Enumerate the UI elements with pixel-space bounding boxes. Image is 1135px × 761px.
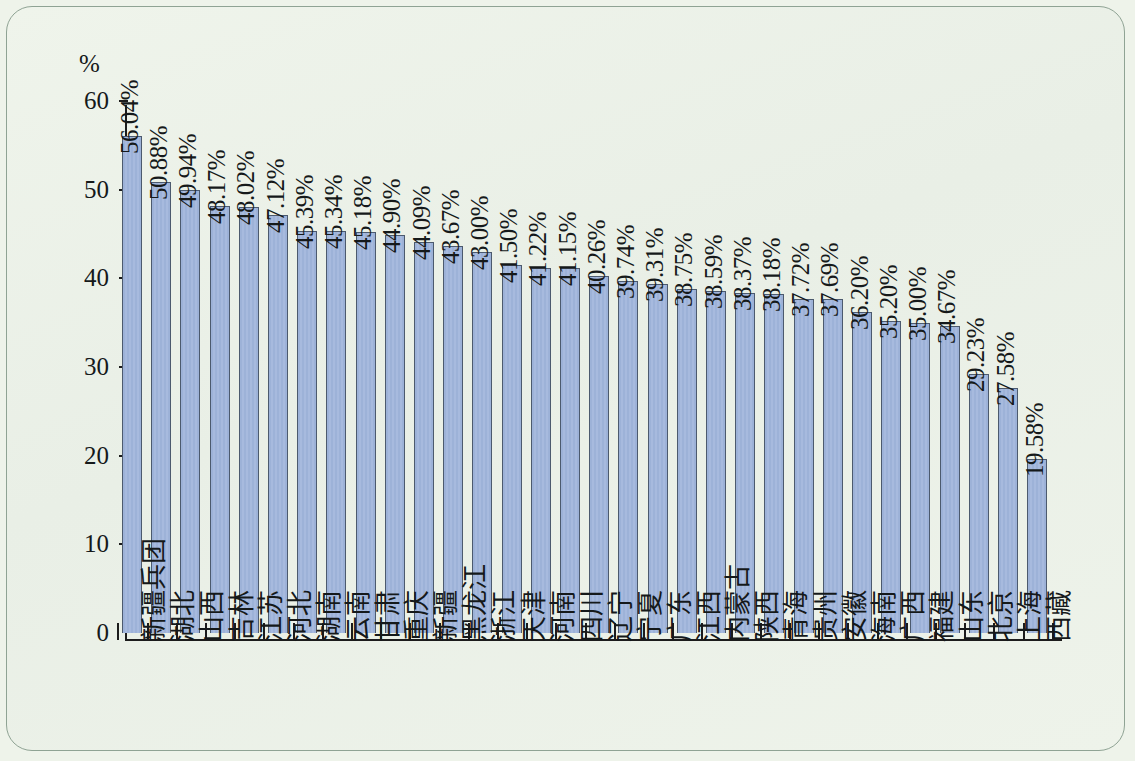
bar [531,268,551,633]
x-category-label: 黑龙江 [462,564,488,642]
bar [677,289,697,633]
x-category-label: 广西 [900,590,926,642]
x-category-label: 湖北 [170,590,196,642]
bar [385,235,405,633]
bar-value-label: 43.67% [438,190,463,264]
x-category-label: 江西 [696,590,722,642]
bar-value-label: 48.02% [233,151,258,225]
x-category-label: 贵州 [813,590,839,642]
x-category-label: 安徽 [842,590,868,642]
x-category-label: 广东 [667,590,693,642]
bar [940,326,960,633]
bar [852,312,872,633]
bar [648,284,668,633]
x-category-label: 陕西 [754,590,780,642]
bar [794,299,814,633]
bar-value-label: 41.15% [555,212,580,286]
bar [910,323,930,633]
y-tick-label: 20 [57,443,109,468]
x-category-label: 浙江 [491,590,517,642]
bar-value-label: 45.39% [292,174,317,248]
x-category-label: 云南 [345,590,371,642]
bar [297,231,317,633]
bar-value-label: 41.22% [525,211,550,285]
x-category-label: 海南 [871,590,897,642]
bar-value-label: 27.58% [993,332,1018,406]
x-category-label: 上海 [1017,590,1043,642]
bar-value-label: 29.23% [963,318,988,392]
bar-value-label: 41.50% [496,209,521,283]
bar-value-label: 48.17% [204,150,229,224]
bar-value-label: 43.00% [467,196,492,270]
x-category-label: 山西 [199,590,225,642]
bar-value-label: 38.75% [671,233,696,307]
bar-value-label: 50.88% [146,126,171,200]
bar [881,321,901,633]
x-category-label: 重庆 [404,590,430,642]
y-axis-unit-label: % [79,51,100,76]
bar-value-label: 35.20% [876,265,901,339]
bar [618,281,638,633]
bar-value-label: 45.34% [321,175,346,249]
y-tick-label: 30 [57,354,109,379]
x-tick-mark [117,623,119,640]
bar-value-label: 38.59% [701,235,726,309]
bar [502,265,522,633]
bar-value-label: 44.90% [379,179,404,253]
bar [414,242,434,633]
x-category-label: 宁夏 [637,590,663,642]
bar-value-label: 19.58% [1022,403,1047,477]
bar-value-label: 35.00% [905,267,930,341]
x-category-label: 辽宁 [608,590,634,642]
x-category-label: 福建 [929,590,955,642]
x-category-label: 天津 [521,590,547,642]
x-category-label: 西藏 [1046,590,1072,642]
bar [560,268,580,633]
x-category-label: 河南 [550,590,576,642]
bar-value-label: 39.74% [613,225,638,299]
bar-value-label: 37.72% [788,242,813,316]
y-tick-label: 50 [57,177,109,202]
x-category-label: 北京 [988,590,1014,642]
x-category-label: 四川 [579,590,605,642]
x-category-label: 湖南 [316,590,342,642]
bar-value-label: 36.20% [847,256,872,330]
x-category-label: 新疆 [433,590,459,642]
bar-value-label: 44.09% [409,186,434,260]
bar-value-label: 37.69% [817,243,842,317]
bar-value-label: 38.37% [730,237,755,311]
y-tick-label: 60 [57,88,109,113]
x-category-label: 甘肃 [375,590,401,642]
bar [326,231,346,633]
bar [823,299,843,633]
x-category-label: 河北 [287,590,313,642]
x-category-label: 山东 [959,590,985,642]
bar-value-label: 47.12% [263,159,288,233]
x-category-label: 内蒙古 [725,564,751,642]
x-category-label: 江苏 [258,590,284,642]
bar [589,276,609,633]
bar-value-label: 34.67% [934,270,959,344]
bar [210,206,230,633]
bar [764,294,784,633]
chart-frame: % 0102030405060 56.04%50.88%49.94%48.17%… [6,6,1125,751]
y-tick-label: 0 [57,620,109,645]
bar-value-label: 40.26% [584,220,609,294]
bar [268,215,288,633]
bar [180,190,200,633]
bar-value-label: 38.18% [759,238,784,312]
x-category-label: 青海 [783,590,809,642]
bar-value-label: 49.94% [175,134,200,208]
bar-value-label: 56.04% [117,80,142,154]
x-category-label: 新疆兵团 [141,538,167,642]
bar [239,207,259,633]
y-tick-label: 40 [57,265,109,290]
bar-value-label: 45.18% [350,176,375,250]
y-tick-label: 10 [57,531,109,556]
x-category-label: 吉林 [229,590,255,642]
bar [356,232,376,633]
bar-value-label: 39.31% [642,228,667,302]
